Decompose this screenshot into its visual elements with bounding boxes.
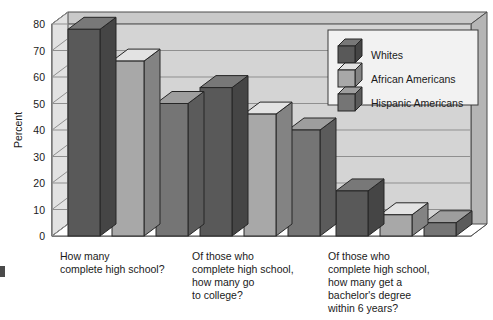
category-label-2: to college? <box>192 289 243 301</box>
y-tick-label: 0 <box>39 230 45 242</box>
legend-label: Hispanic Americans <box>371 97 463 109</box>
y-tick-label: 10 <box>33 204 45 216</box>
bar-front-face <box>112 61 144 236</box>
bar-side-face <box>100 17 116 236</box>
y-tick-label: 50 <box>33 98 45 110</box>
chart-figure: 01020304050607080 Percent How manycomple… <box>0 0 493 320</box>
bar-side-face <box>276 102 292 236</box>
legend-swatch-front <box>338 94 355 111</box>
category-label-2: how many go <box>192 276 255 288</box>
category-label-3: complete high school, <box>328 263 430 275</box>
bar-whites-group-1 <box>68 17 116 236</box>
bar-whites-group-3 <box>336 179 384 236</box>
bar-side-face <box>320 118 336 236</box>
category-label-3: how many get a <box>328 276 402 288</box>
legend-swatch-front <box>338 70 355 87</box>
bar-front-face <box>200 88 232 236</box>
legend-swatch-front <box>338 46 355 63</box>
y-tick-label: 40 <box>33 124 45 136</box>
bar-side-face <box>188 92 204 237</box>
bar-african-americans-group-1 <box>112 49 160 236</box>
y-axis-tick-labels: 01020304050607080 <box>33 18 45 242</box>
bar-front-face <box>156 104 188 237</box>
y-tick-label: 70 <box>33 45 45 57</box>
category-label-2: Of those who <box>192 250 254 262</box>
bar-front-face <box>244 114 276 236</box>
bar-front-face <box>336 191 368 236</box>
bar-front-face <box>288 130 320 236</box>
bar-front-face <box>380 215 412 236</box>
bar-front-face <box>68 29 100 236</box>
y-tick-label: 30 <box>33 151 45 163</box>
bar-hispanic-americans-group-1 <box>156 92 204 237</box>
bar-african-americans-group-2 <box>244 102 292 236</box>
chart-legend: WhitesAfrican AmericansHispanic American… <box>328 30 478 111</box>
page-edge-mark <box>0 266 5 277</box>
category-label-3: within 6 years? <box>327 302 398 314</box>
bar-front-face <box>424 223 456 236</box>
bar-chart: 01020304050607080 Percent How manycomple… <box>0 0 493 320</box>
category-label-3: bachelor's degree <box>328 289 411 301</box>
category-label-1: complete high school? <box>60 263 165 275</box>
category-label-1: How many <box>60 250 110 262</box>
y-tick-label: 80 <box>33 18 45 30</box>
plot-top-face <box>52 12 487 24</box>
bar-side-face <box>232 76 248 236</box>
bar-side-face <box>144 49 160 236</box>
category-label-2: complete high school, <box>192 263 294 275</box>
legend-label: African Americans <box>371 73 456 85</box>
bar-hispanic-americans-group-2 <box>288 118 336 236</box>
y-tick-label: 60 <box>33 71 45 83</box>
bar-whites-group-2 <box>200 76 248 236</box>
legend-label: Whites <box>371 49 403 61</box>
y-tick-label: 20 <box>33 177 45 189</box>
y-axis-title: Percent <box>12 112 24 148</box>
category-label-3: Of those who <box>328 250 390 262</box>
